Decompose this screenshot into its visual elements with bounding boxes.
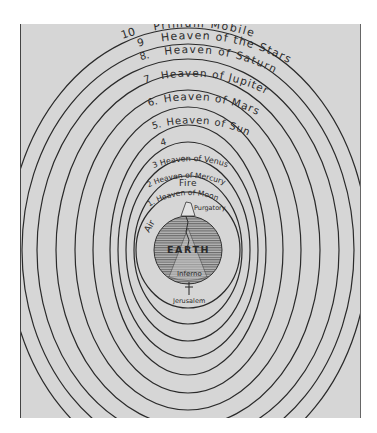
sphere-label-9-num: 9: [136, 35, 146, 48]
element-label-fire: Fire: [179, 178, 197, 188]
sphere-label-5-num: 5.: [150, 118, 162, 131]
purgatory-mountain: [181, 202, 195, 216]
inferno-label: Inferno: [177, 270, 202, 278]
earth-label: EARTH: [167, 244, 210, 255]
sphere-label-8-num: 8.: [138, 49, 150, 62]
purgatory-label: Purgatory: [194, 204, 226, 212]
diagram-frame: 10 Primum Mobile 9 Heaven of the Stars 8…: [20, 24, 361, 418]
cosmos-diagram: 10 Primum Mobile 9 Heaven of the Stars 8…: [21, 24, 360, 418]
element-label-air: Air: [142, 218, 157, 234]
jerusalem-label: Jerusalem: [172, 297, 205, 305]
sphere-label-4-num: 4: [159, 137, 167, 148]
sphere-label-6-num: 6.: [146, 95, 158, 108]
sphere-label-sun: Heaven of Sun: [166, 114, 253, 137]
sphere-label-7-num: 7: [142, 73, 151, 85]
sphere-label-10-num: 10: [119, 25, 137, 42]
sphere-label-venus: 3 Heaven of Venus: [151, 154, 229, 170]
